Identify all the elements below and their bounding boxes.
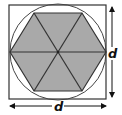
horizontal-dimension-label: d [54,99,64,114]
center-point [57,51,60,54]
vertical-dimension-label: d [108,46,118,61]
hexagon-diagram: d d [0,0,122,115]
